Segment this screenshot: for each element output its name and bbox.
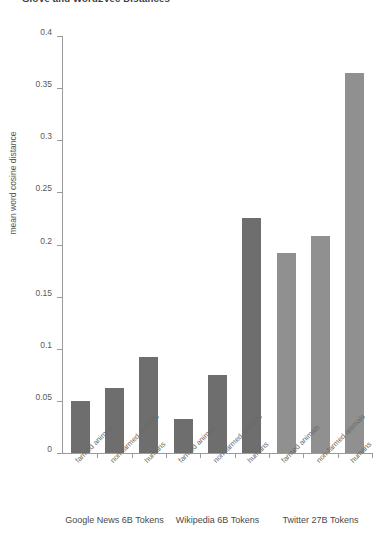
x-tick-mark xyxy=(372,454,373,458)
x-tick-mark xyxy=(200,454,201,458)
bar xyxy=(208,375,227,453)
y-tick-label: 0.4 xyxy=(8,28,52,37)
y-tick-mark xyxy=(57,192,62,193)
y-tick-label: 0.2 xyxy=(8,237,52,246)
x-group-label: Google News 6B Tokens xyxy=(55,516,175,525)
x-group-label: Wikipedia 6B Tokens xyxy=(158,516,278,525)
bar xyxy=(345,73,364,454)
y-tick-label: 0.15 xyxy=(8,289,52,298)
y-tick-label: 0.35 xyxy=(8,80,52,89)
x-tick-mark xyxy=(269,454,270,458)
y-tick-label: 0 xyxy=(8,445,52,454)
bar xyxy=(105,388,124,453)
x-tick-mark xyxy=(132,454,133,458)
y-tick-mark xyxy=(57,36,62,37)
x-tick-mark xyxy=(338,454,339,458)
y-tick-mark xyxy=(57,453,62,454)
y-tick-mark xyxy=(57,140,62,141)
y-tick-mark xyxy=(57,401,62,402)
bar xyxy=(277,253,296,453)
y-tick-mark xyxy=(57,245,62,246)
y-tick-label: 0.05 xyxy=(8,393,52,402)
y-tick-mark xyxy=(57,297,62,298)
x-tick-mark xyxy=(235,454,236,458)
x-tick-mark xyxy=(303,454,304,458)
y-axis-title: mean word cosine distance xyxy=(8,88,18,278)
x-tick-mark xyxy=(97,454,98,458)
plot-area xyxy=(63,36,372,453)
bar xyxy=(311,236,330,453)
x-group-label: Twitter 27B Tokens xyxy=(261,516,381,525)
y-tick-label: 0.25 xyxy=(8,184,52,193)
bar xyxy=(139,357,158,453)
y-tick-mark xyxy=(57,349,62,350)
y-tick-mark xyxy=(57,88,62,89)
x-tick-mark xyxy=(166,454,167,458)
y-tick-label: 0.1 xyxy=(8,341,52,350)
y-tick-label: 0.3 xyxy=(8,132,52,141)
bar-chart: mean word cosine distance 00.050.10.150.… xyxy=(0,0,381,535)
